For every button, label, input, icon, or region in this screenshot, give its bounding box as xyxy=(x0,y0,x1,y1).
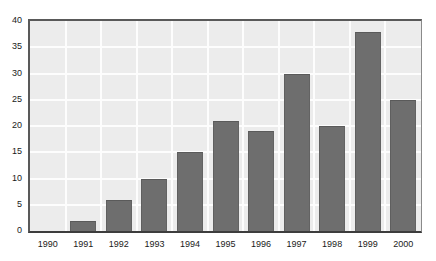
y-axis-tick-label: 20 xyxy=(0,121,26,130)
y-axis-tick-label: 5 xyxy=(0,200,26,209)
x-axis-tick-label: 1991 xyxy=(66,239,102,249)
bar xyxy=(390,100,416,231)
bar xyxy=(248,131,274,231)
plot-frame xyxy=(28,19,422,233)
bar xyxy=(319,126,345,231)
bar xyxy=(284,74,310,232)
bar xyxy=(141,179,167,232)
y-axis-tick-label: 30 xyxy=(0,69,26,78)
y-axis-tick-labels: 0510152025303540 xyxy=(0,0,26,261)
y-axis-tick-label: 10 xyxy=(0,174,26,183)
bar xyxy=(213,121,239,231)
x-axis-tick-label: 1992 xyxy=(101,239,137,249)
bar xyxy=(355,32,381,232)
x-axis-tick-label: 1994 xyxy=(172,239,208,249)
x-axis-tick-label: 1993 xyxy=(137,239,173,249)
bars-layer xyxy=(30,21,421,231)
x-axis-tick-label: 1998 xyxy=(314,239,350,249)
y-axis-tick-label: 15 xyxy=(0,147,26,156)
x-axis-tick-label: 1995 xyxy=(208,239,244,249)
x-axis-tick-label: 1996 xyxy=(243,239,279,249)
x-axis-tick-label: 1997 xyxy=(279,239,315,249)
x-axis-tick-label: 2000 xyxy=(385,239,421,249)
bar xyxy=(106,200,132,232)
x-axis-tick-label: 1990 xyxy=(30,239,66,249)
bar xyxy=(70,221,96,232)
bar xyxy=(177,152,203,231)
y-axis-tick-label: 35 xyxy=(0,42,26,51)
y-axis-tick-label: 25 xyxy=(0,95,26,104)
x-axis-tick-labels: 1990199119921993199419951996199719981999… xyxy=(28,239,422,255)
plot-area xyxy=(30,21,421,231)
y-axis-tick-label: 0 xyxy=(0,226,26,235)
x-axis-tick-label: 1999 xyxy=(350,239,386,249)
bar-chart: 0510152025303540 19901991199219931994199… xyxy=(0,0,436,261)
y-axis-tick-label: 40 xyxy=(0,16,26,25)
